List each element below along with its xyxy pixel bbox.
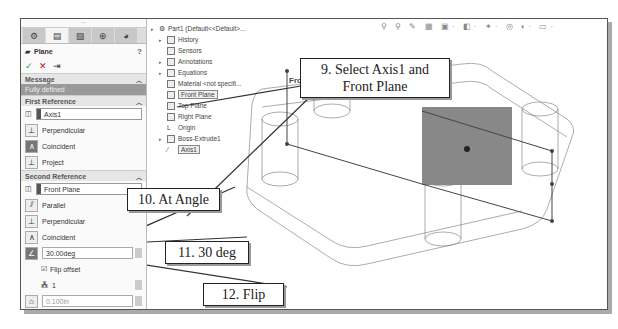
option-coincident-2[interactable]: ∧Coincident <box>21 229 146 245</box>
first-reference-header[interactable]: First Reference︿ <box>21 95 146 106</box>
panel-title: ▰ Plane ? <box>21 44 146 59</box>
tree-item-sensors[interactable]: Sensors <box>159 45 291 56</box>
offset-input[interactable]: 0.100in <box>42 295 133 307</box>
dimxpert-tab[interactable]: ⊕ <box>92 28 114 43</box>
panel-grip[interactable]: ⋯ <box>21 19 146 28</box>
flip-offset-row[interactable]: ☑Flip offset <box>21 261 146 277</box>
origin-icon: L <box>167 124 178 131</box>
coincident-icon: ∧ <box>25 231 38 244</box>
extrude-icon <box>167 135 175 143</box>
plane-icon: ▰ <box>25 48 30 56</box>
perpendicular-icon: ⊥ <box>25 215 38 228</box>
reference-icon: ◫ <box>25 110 32 118</box>
part-icon: ⚙ <box>159 25 165 33</box>
second-reference-header[interactable]: Second Reference︿ <box>21 170 146 181</box>
chevron-up-icon: ︿ <box>136 172 142 181</box>
feature-manager-tab[interactable]: ⚙ <box>23 28 45 43</box>
option-perpendicular-2[interactable]: ⊥Perpendicular <box>21 213 146 229</box>
offset-spinner[interactable] <box>135 296 142 306</box>
chevron-up-icon: ︿ <box>136 97 142 106</box>
tree-item-material[interactable]: Material <not specifi... <box>159 78 291 89</box>
manager-tabs: ⚙ ▤ ▧ ⊕ ◕ <box>21 28 146 44</box>
action-buttons: ✓ ✕ ⇥ <box>21 59 146 73</box>
heads-up-toolbar[interactable]: ⚲ ⚲ ✎ ▦ ▣· ◧· ✦· ◎ ◐· ▭· <box>381 22 556 31</box>
perpendicular-icon: ⊥ <box>25 124 38 137</box>
sensors-icon <box>167 47 175 55</box>
axis-icon: ⁄ <box>167 146 178 153</box>
tree-item-origin[interactable]: LOrigin <box>159 122 291 133</box>
callout-10: 10. At Angle <box>127 188 220 211</box>
status-message: Fully defined <box>21 84 146 95</box>
property-manager-panel: ⋯ ⚙ ▤ ▧ ⊕ ◕ ▰ Plane ? ✓ ✕ ⇥ Message︿ Ful… <box>21 19 147 309</box>
tree-item-annotations[interactable]: ▸Annotations <box>159 56 291 67</box>
option-perpendicular[interactable]: ⊥Perpendicular <box>21 122 146 138</box>
callout-11: 11. 30 deg <box>165 241 249 264</box>
instances-spinner[interactable] <box>135 280 142 290</box>
plane-icon <box>167 102 175 110</box>
property-manager-tab[interactable]: ▤ <box>46 28 68 43</box>
tree-root[interactable]: ▸⚙Part1 (Default<<Default>... <box>151 23 291 34</box>
message-section-header[interactable]: Message︿ <box>21 73 146 84</box>
equations-icon <box>167 69 175 77</box>
cancel-button[interactable]: ✕ <box>39 61 47 71</box>
angle-input[interactable]: 30.00deg <box>42 247 133 259</box>
ok-button[interactable]: ✓ <box>25 61 33 71</box>
instances-icon: ⁂ <box>41 281 48 289</box>
display-manager-tab[interactable]: ◕ <box>115 28 137 43</box>
parallel-icon: ⫽ <box>25 199 38 212</box>
material-icon <box>167 80 175 88</box>
help-icon[interactable]: ? <box>137 47 142 56</box>
annotations-icon <box>167 58 175 66</box>
tree-item-axis1[interactable]: ⁄Axis1 <box>159 144 291 155</box>
first-reference-field[interactable]: Axis1 <box>36 108 142 120</box>
offset-row: ⌂0.100in <box>21 293 146 309</box>
pin-button[interactable]: ⇥ <box>53 61 61 71</box>
history-icon <box>167 36 175 44</box>
tree-item-history[interactable]: ▸History <box>159 34 291 45</box>
tree-item-top-plane[interactable]: Top Plane <box>159 100 291 111</box>
instances-row: ⁂1 <box>21 277 146 293</box>
callout-12: 12. Flip <box>203 283 284 306</box>
angle-spinner[interactable] <box>135 248 142 258</box>
tree-item-front-plane[interactable]: Front Plane <box>159 89 291 100</box>
tree-item-right-plane[interactable]: Right Plane <box>159 111 291 122</box>
tree-item-boss-extrude[interactable]: ▸Boss-Extrude1 <box>159 133 291 144</box>
at-angle-row: ∠30.00deg <box>21 245 146 261</box>
project-icon: ⊥ <box>25 156 38 169</box>
flip-offset-checkbox[interactable]: ☑ <box>41 265 47 273</box>
chevron-up-icon: ︿ <box>136 75 142 84</box>
reference-icon: ◫ <box>25 185 32 193</box>
first-reference-selection: ◫ Axis1 <box>21 106 146 122</box>
tree-item-equations[interactable]: ▸Equations <box>159 67 291 78</box>
plane-icon <box>167 91 175 99</box>
option-project[interactable]: ⊥Project <box>21 154 146 170</box>
callout-9: 9. Select Axis1 and Front Plane <box>300 58 450 98</box>
plane-icon <box>167 113 175 121</box>
option-coincident[interactable]: ∧Coincident <box>21 138 146 154</box>
offset-icon: ⌂ <box>25 295 38 308</box>
configuration-manager-tab[interactable]: ▧ <box>69 28 91 43</box>
coincident-icon: ∧ <box>25 140 38 153</box>
feature-tree: ▸⚙Part1 (Default<<Default>... ▸History S… <box>151 23 291 155</box>
at-angle-icon[interactable]: ∠ <box>25 247 38 260</box>
